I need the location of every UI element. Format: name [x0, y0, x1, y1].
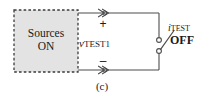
negative-polarity-sign: – — [96, 55, 110, 67]
panel-caption: (c) — [84, 81, 120, 92]
voltage-label: vTEST1 — [79, 38, 110, 49]
current-subscript: TEST — [171, 24, 190, 33]
circuit-figure: Sources ON + – vTEST1 iTEST OFF (c) — [0, 0, 203, 102]
voltage-subscript: TEST1 — [84, 39, 110, 49]
sources-block-label-line2: ON — [22, 41, 70, 53]
switch-contact-top[interactable] — [157, 38, 162, 43]
current-label: iTEST — [168, 23, 190, 33]
positive-polarity-sign: + — [96, 18, 110, 30]
sources-block-label-line1: Sources — [22, 28, 70, 40]
switch-state-label: OFF — [170, 34, 194, 46]
